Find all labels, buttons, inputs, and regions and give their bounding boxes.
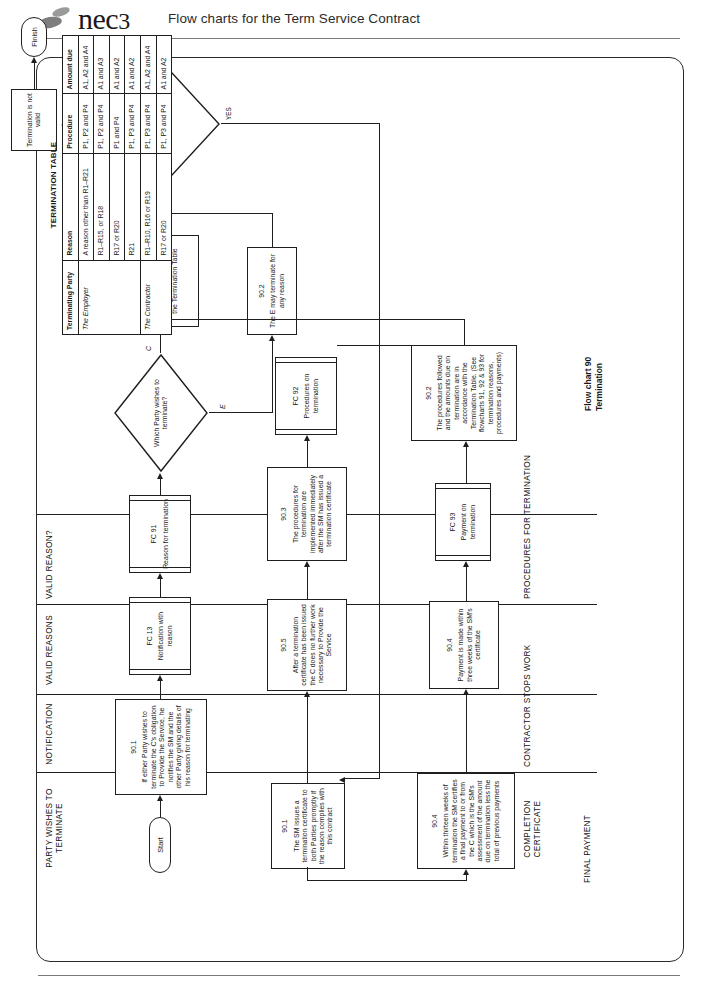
- lane-label-valid-reasons: VALID REASONS: [45, 611, 55, 689]
- termination-table-block: TERMINATION TABLE Terminating Party Reas…: [49, 35, 172, 335]
- cell-reason: R17 or R20: [109, 153, 125, 260]
- connector: [307, 867, 308, 881]
- node-ref: 90.4: [431, 814, 439, 827]
- node-body: The procedures for termination are imple…: [292, 471, 334, 557]
- lane-label-contractor-stops-work: CONTRACTOR STOPS WORK: [523, 607, 533, 767]
- arrowhead: [304, 561, 310, 567]
- node-fc-93: FC 93 Payment on termination: [435, 483, 491, 561]
- connector: [34, 61, 35, 89]
- chart-caption: Flow chart 90 Termination: [583, 357, 605, 411]
- connector: [160, 213, 272, 214]
- node-ref: 90.2: [425, 386, 433, 399]
- connector: [272, 213, 273, 247]
- arrowhead: [463, 869, 469, 875]
- arrowhead: [31, 57, 37, 63]
- cell-amount: A1 and A2: [125, 36, 141, 94]
- node-ref: FC 91: [150, 525, 158, 544]
- cell-procedure: P1, P2 and P4: [94, 94, 110, 153]
- node-90-3: 90.3 The procedures for termination are …: [267, 467, 347, 561]
- connector: [160, 579, 161, 597]
- node-90-1-sm-certificate: 90.1 The SM issues a termination certifi…: [271, 783, 345, 869]
- node-90-2-employer: 90.2 The E may terminate for any reason: [247, 247, 297, 335]
- node-ref: 90.2: [258, 284, 266, 297]
- cell-reason: R1–R15, or R18: [94, 153, 110, 260]
- node-body: Termination is not valid: [26, 93, 43, 147]
- node-body: Procedures on termination: [303, 361, 320, 431]
- start-label: Start: [156, 837, 165, 853]
- arrowhead: [463, 441, 469, 447]
- node-fc-91: FC 91 Reason for termination: [129, 495, 191, 573]
- finish-label: Finish: [30, 27, 39, 47]
- finish-terminator: Finish: [21, 17, 47, 57]
- node-90-2-procedures-amounts: 90.2 The procedures followed and the amo…: [411, 345, 517, 441]
- connector: [221, 123, 379, 124]
- connector: [307, 441, 308, 467]
- edge-label-c: C: [145, 346, 152, 351]
- arrowhead: [269, 335, 275, 341]
- lane-label-completion-certificate: COMPLETIONCERTIFICATE: [523, 775, 543, 883]
- termination-table-title: TERMINATION TABLE: [49, 35, 58, 335]
- connector: [464, 319, 465, 345]
- node-90-4-final-assessment: 90.4 Within thirteen weeks of terminatio…: [417, 773, 515, 869]
- node-body: Payment is made within three weeks of th…: [457, 605, 482, 685]
- cell-amount: A1 and A2: [109, 36, 125, 94]
- connector: [160, 333, 161, 353]
- node-ref: FC 13: [146, 627, 154, 646]
- arrowhead: [463, 689, 469, 695]
- cell-reason: R1–R10, R16 or R19: [140, 153, 156, 260]
- arrowhead: [157, 795, 163, 801]
- arrowhead: [157, 573, 163, 579]
- node-body: After a termination certificate has been…: [292, 603, 334, 687]
- connector: [337, 345, 411, 346]
- node-ref: FC 93: [449, 513, 457, 532]
- node-ref: 90.1: [130, 740, 138, 753]
- cell-procedure: P1, P3 and P4: [156, 94, 172, 153]
- table-header-row: Terminating Party Reason Procedure Amoun…: [63, 36, 79, 335]
- node-body: Within thirteen weeks of termination the…: [442, 777, 501, 865]
- connector: [143, 319, 465, 320]
- cell-procedure: P1, P3 and P4: [125, 94, 141, 153]
- lane-label-party-wishes: PARTY WISHES TOTERMINATE: [45, 775, 65, 881]
- node-90-1-party: 90.1 If either Party wishes to terminate…: [115, 699, 207, 795]
- table-row: The Employer A reason other than R1–R21 …: [78, 36, 94, 335]
- node-body: The procedures followed and the amounts …: [436, 349, 503, 437]
- start-terminator: Start: [149, 817, 171, 873]
- cell-reason: R21: [125, 153, 141, 260]
- arrowhead: [304, 691, 310, 697]
- node-ref: 90.5: [280, 638, 288, 651]
- caption-line-2: Termination: [594, 357, 605, 411]
- decision-which-party: Which Party wishes to terminate?: [113, 353, 209, 473]
- lane-label-procedures-for-termination: PROCEDURES FOR TERMINATION: [523, 399, 533, 599]
- col-procedure: Procedure: [63, 94, 79, 153]
- cell-amount: A1 and A2: [156, 36, 172, 94]
- cell-party: The Contractor: [140, 260, 171, 334]
- node-body: Payment on termination: [460, 487, 477, 557]
- connector: [160, 681, 161, 699]
- connector: [379, 123, 380, 779]
- connector: [307, 880, 466, 881]
- node-90-4-payment: 90.4 Payment is made within three weeks …: [429, 601, 499, 689]
- lane-label-final-payment: FINAL PAYMENT: [583, 763, 593, 883]
- cell-procedure: P1, P3 and P4: [140, 94, 156, 153]
- connector: [466, 567, 467, 601]
- cell-reason: A reason other than R1–R21: [78, 153, 94, 260]
- node-body: The SM issues a termination certificate …: [293, 787, 335, 865]
- edge-label-e: E: [219, 404, 226, 409]
- arrowhead: [339, 777, 345, 783]
- footer-divider: [38, 975, 680, 976]
- caption-line-1: Flow chart 90: [583, 357, 594, 411]
- node-ref: FC 92: [292, 387, 300, 406]
- connector: [160, 801, 161, 817]
- cell-procedure: P1, P2 and P4: [78, 94, 94, 153]
- arrowhead: [463, 561, 469, 567]
- node-ref: 90.3: [280, 507, 288, 520]
- connector: [466, 447, 467, 483]
- cell-amount: A1 and A3: [94, 36, 110, 94]
- flowchart-canvas: PARTY WISHES TOTERMINATE NOTIFICATION VA…: [23, 11, 623, 891]
- col-terminating-party: Terminating Party: [63, 260, 79, 334]
- node-fc-13: FC 13 Notification with reason: [129, 597, 191, 675]
- arrowhead: [157, 675, 163, 681]
- termination-table: Terminating Party Reason Procedure Amoun…: [62, 35, 172, 335]
- connector: [160, 479, 161, 495]
- connector: [466, 875, 467, 881]
